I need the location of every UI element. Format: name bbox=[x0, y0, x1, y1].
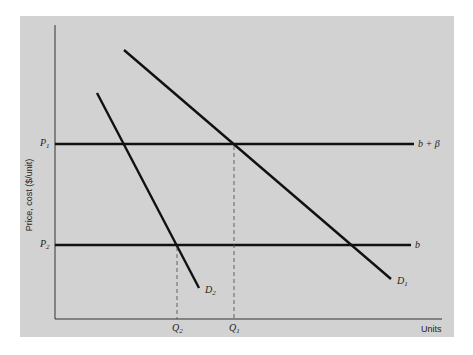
b-plus-beta-label: b + β bbox=[418, 139, 440, 149]
demand-cost-diagram bbox=[0, 0, 473, 355]
q2-label: Q2 bbox=[172, 323, 183, 335]
p1-label: P1 bbox=[40, 138, 50, 150]
b-label: b bbox=[415, 240, 420, 250]
x-axis-label: Units bbox=[421, 325, 442, 334]
p2-label: P2 bbox=[40, 239, 50, 251]
y-axis-label: Price, cost ($/unit) bbox=[24, 159, 34, 232]
d1-label: D1 bbox=[397, 276, 408, 288]
demand-curve-d2 bbox=[97, 93, 199, 288]
q1-label: Q1 bbox=[229, 323, 240, 335]
d2-label: D2 bbox=[205, 285, 216, 297]
